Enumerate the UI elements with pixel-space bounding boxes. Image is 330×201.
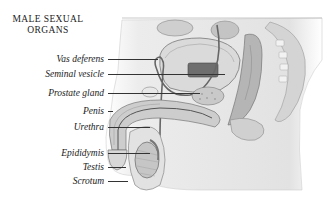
leader-seminal-vesicle bbox=[108, 74, 225, 75]
label-testis: Testis bbox=[83, 162, 104, 172]
label-penis: Penis bbox=[83, 106, 104, 116]
label-seminal-vesicle: Seminal vesicle bbox=[45, 69, 104, 79]
label-scrotum: Scrotum bbox=[73, 176, 104, 186]
leader-epididymis bbox=[108, 153, 150, 154]
label-prostate-gland: Prostate gland bbox=[48, 88, 104, 98]
leader-penis bbox=[108, 111, 113, 112]
prostate bbox=[192, 87, 224, 105]
title-line-1: MALE SEXUAL bbox=[8, 14, 88, 25]
label-epididymis: Epididymis bbox=[61, 148, 104, 158]
title-line-2: ORGANS bbox=[8, 25, 88, 36]
diagram-title: MALE SEXUAL ORGANS bbox=[8, 14, 88, 36]
label-vas-deferens: Vas deferens bbox=[57, 54, 104, 64]
leader-vas-deferens bbox=[108, 59, 158, 60]
leader-prostate-gland bbox=[108, 93, 200, 94]
leader-urethra bbox=[108, 127, 150, 128]
label-urethra: Urethra bbox=[74, 122, 104, 132]
leader-scrotum bbox=[108, 181, 128, 182]
leader-testis bbox=[108, 167, 126, 168]
